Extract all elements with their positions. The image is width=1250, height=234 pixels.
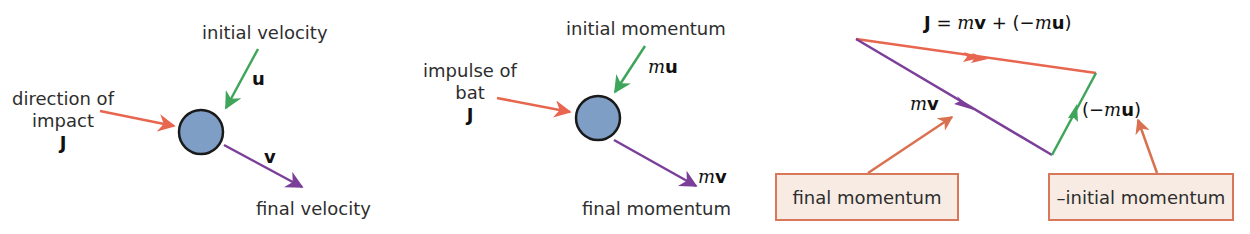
neg-mu-arrowhead [1068,104,1078,122]
v-symbol: v [715,166,727,187]
callout-final-momentum: final momentum [775,173,959,221]
v-symbol: v [974,12,986,33]
v-symbol: v [927,93,939,114]
u-symbol: u [252,68,265,90]
impulse-equation: J = mv + (−mu) [924,12,1072,34]
u-symbol: u [1121,99,1134,120]
final-momentum-arrow [614,140,696,186]
m-symbol: m [910,93,927,114]
mv-vector [856,39,1052,155]
close-paren: ) [1065,12,1072,33]
close-paren: ) [1134,99,1141,120]
impulse-label-line1: impulse of [420,60,520,82]
j-symbol: J [8,132,118,154]
m-symbol: m [957,12,974,33]
equals-sign: = [931,12,958,33]
m-symbol: m [698,166,715,187]
ball [576,96,620,140]
mv-vector-label: mv [910,93,939,115]
final-momentum-label: final momentum [582,198,731,220]
m-symbol: m [648,56,665,77]
j-symbol: J [420,104,520,126]
impulse-label: impulse of bat J [420,60,520,126]
initial-momentum-label: initial momentum [566,18,726,40]
ball [179,110,223,154]
impact-label-line1: direction of [8,88,118,110]
initial-velocity-label: initial velocity [202,22,328,44]
plus-sign: + (− [986,12,1035,33]
neg-mu-vector-label: (−mu) [1082,99,1141,121]
mv-symbol: mv [698,166,727,188]
final-velocity-label: final velocity [256,198,371,220]
m-symbol: m [1035,12,1052,33]
callout-neg-initial-momentum: –initial momentum [1048,173,1234,221]
v-symbol: v [264,146,276,168]
impulse-label-line2: bat [420,82,520,104]
impact-label: direction of impact J [8,88,118,154]
j-symbol: J [924,12,931,33]
impact-label-line2: impact [8,110,118,132]
callout-arrow-neg-initial [1138,120,1157,173]
initial-momentum-arrow [615,46,645,92]
callout-arrow-final [868,117,952,173]
m-symbol: m [1104,99,1121,120]
mu-symbol: mu [648,56,678,78]
u-symbol: u [665,56,678,77]
final-velocity-arrow [224,145,302,187]
open-paren: (− [1082,99,1104,120]
u-symbol: u [1052,12,1065,33]
